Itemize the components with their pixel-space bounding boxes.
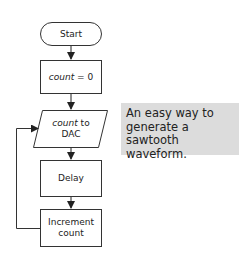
delay-text: Delay bbox=[58, 173, 84, 184]
init-variable-text: count bbox=[49, 72, 74, 82]
start-label: Start bbox=[40, 22, 102, 46]
increment-text: Increment count bbox=[42, 217, 100, 239]
increment-label: Increment count bbox=[42, 209, 100, 247]
start-text: Start bbox=[60, 29, 82, 40]
init-rest-text: = 0 bbox=[74, 72, 93, 82]
output-variable-text: count bbox=[52, 118, 77, 128]
delay-label: Delay bbox=[40, 160, 102, 197]
init-label: count = 0 bbox=[40, 60, 102, 94]
annotation-note: An easy way to generate a sawtooth wavef… bbox=[121, 103, 239, 155]
output-label: count to DAC bbox=[44, 112, 98, 146]
annotation-text: An easy way to generate a sawtooth wavef… bbox=[126, 106, 214, 161]
